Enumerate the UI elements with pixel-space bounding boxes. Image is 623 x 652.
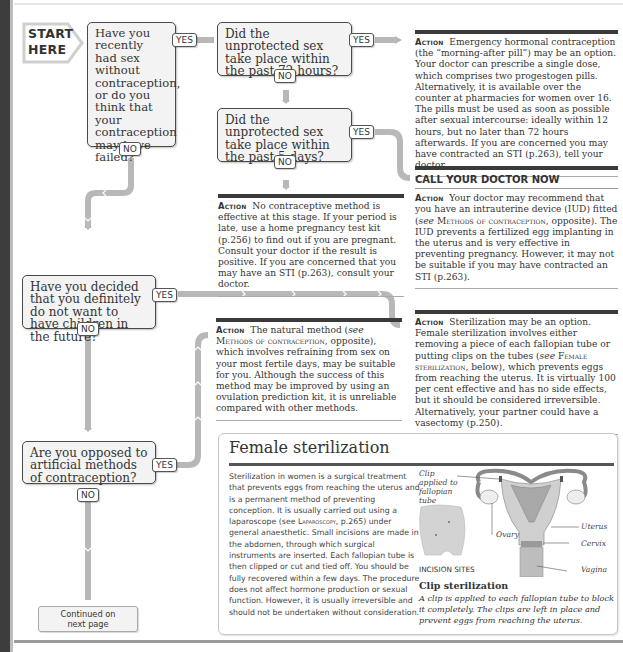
no-tag-q1: NO	[119, 142, 141, 156]
action-keyword: Action	[415, 317, 444, 327]
yes-tag-q5: YES	[152, 458, 177, 472]
incision-sites-torso-icon	[420, 505, 465, 555]
question-box-5-days: Did the unprotected sex take place withi…	[217, 108, 352, 162]
figure-caption: A clip is applied to each fallopian tube…	[419, 593, 617, 625]
question-box-opposed-artificial: Are you opposed to artificial methods of…	[22, 441, 156, 484]
call-your-doctor-now-heading: CALL YOUR DOCTOR NOW	[415, 173, 618, 189]
no-tag-q4: NO	[77, 322, 99, 336]
question-text: Are you opposed to artificial methods of…	[30, 446, 147, 485]
vagina-icon	[520, 547, 543, 577]
female-sterilization-panel: Female sterilization Sterilization in wo…	[218, 433, 618, 635]
action-text: Emergency hormonal contraception (the “m…	[415, 37, 616, 170]
action-bar	[415, 30, 618, 34]
action-text-after: , opposite), which involves refraining f…	[216, 336, 396, 413]
cross-reference-link[interactable]: Methods of contraception	[216, 336, 325, 346]
no-tag-q3: NO	[274, 155, 296, 169]
clip-icon	[499, 476, 502, 482]
no-tag-q5: NO	[77, 488, 99, 502]
start-here-tag: START HERE	[22, 22, 82, 62]
action-keyword: Action	[415, 37, 444, 47]
action-keyword: Action	[216, 325, 245, 335]
cervix-icon	[521, 541, 542, 547]
action-bar	[218, 194, 404, 198]
label-ovary: Ovary	[496, 530, 519, 539]
figure-caption-title: Clip sterilization	[419, 580, 508, 591]
continued-line2: next page	[39, 620, 137, 630]
action-bar	[415, 310, 618, 314]
see-ref: see	[540, 351, 555, 361]
page-binding	[0, 0, 10, 652]
action-text-before: The natural method (	[250, 325, 348, 335]
yes-tag-q2: YES	[349, 33, 374, 47]
action-sterilization: Action Sterilization may be an option. F…	[415, 310, 618, 435]
bottom-rule	[14, 640, 623, 643]
label-incision-sites: INCISION SITES	[419, 565, 475, 574]
no-tag-q2: NO	[274, 69, 296, 83]
see-ref: see	[419, 216, 434, 226]
top-rule	[14, 3, 623, 5]
label-cervix: Cervix	[581, 539, 606, 548]
action-underline	[218, 296, 404, 297]
label-vagina: Vagina	[581, 565, 607, 574]
start-label-line2: HERE	[28, 42, 73, 58]
clip-sterilization-figure: Clip applied to fallopian tube Ovary Ute…	[419, 467, 617, 635]
cross-reference-link[interactable]: Laparoscopy	[298, 517, 336, 526]
label-uterus: Uterus	[581, 522, 607, 531]
action-text: No contraceptive method is effective at …	[218, 201, 397, 289]
action-keyword: Action	[415, 193, 444, 203]
action-bar	[216, 318, 402, 322]
question-box-72-hours: Did the unprotected sex take place withi…	[217, 22, 352, 76]
label-clip-applied: Clip applied to fallopian tube	[419, 469, 465, 505]
action-bar	[415, 166, 618, 170]
continued-next-page-box[interactable]: Continued on next page	[38, 606, 138, 632]
cross-reference-link[interactable]: Methods of contraception	[437, 216, 546, 226]
action-underline	[216, 420, 402, 421]
start-label-line1: START	[28, 26, 73, 42]
panel-title: Female sterilization	[229, 438, 390, 457]
action-iud-call-doctor: CALL YOUR DOCTOR NOW Action Your doctor …	[415, 166, 618, 289]
action-no-method-effective: Action No contraceptive method is effect…	[218, 194, 404, 297]
ovary-icon	[480, 490, 498, 504]
panel-body-after: , p.265) under general anaesthetic. Smal…	[229, 517, 419, 616]
panel-title-rule	[229, 463, 614, 466]
action-natural-method: Action The natural method (see Methods o…	[216, 318, 402, 421]
panel-body: Sterilization in women is a surgical tre…	[229, 471, 421, 618]
page-binding-edge	[10, 0, 13, 652]
yes-tag-q4: YES	[152, 288, 177, 302]
yes-tag-q3: YES	[349, 125, 374, 139]
question-box-no-children: Have you decided that you definitely do …	[22, 275, 156, 329]
question-box-recent-sex: Have you recently had sex without contra…	[87, 22, 176, 147]
action-underline	[415, 288, 618, 289]
action-keyword: Action	[218, 201, 247, 211]
see-ref: see	[348, 325, 363, 335]
yes-tag-q1: YES	[172, 33, 197, 47]
action-emergency-contraception: Action Emergency hormonal contraception …	[415, 30, 618, 177]
